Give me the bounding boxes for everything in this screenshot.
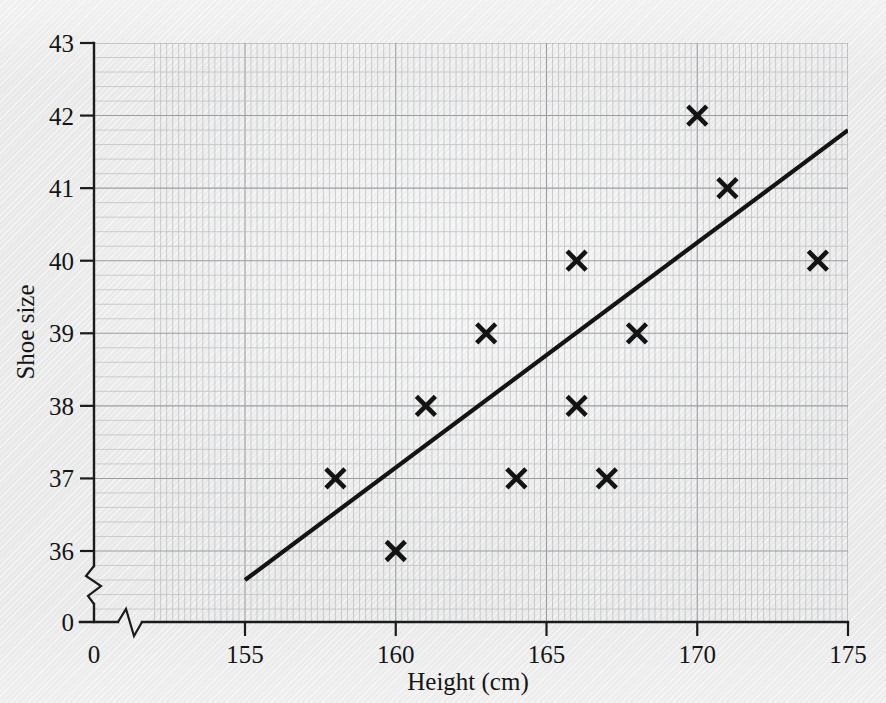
y-axis-tick-label: 39 xyxy=(49,320,74,347)
x-axis-tick-label: 155 xyxy=(226,641,264,668)
x-axis-tick-labels: 1551601651701750 xyxy=(88,641,867,668)
y-axis-title: Shoe size xyxy=(12,284,39,379)
y-axis-tick-label: 38 xyxy=(49,393,74,420)
y-axis-break-icon xyxy=(86,566,101,604)
x-axis-tick-label: 170 xyxy=(679,641,717,668)
y-axis-tick-labels: 43424140393837360 xyxy=(49,30,74,636)
x-axis-break-icon xyxy=(118,609,142,636)
axes xyxy=(80,43,848,636)
y-axis-tick-label: 42 xyxy=(49,103,74,130)
x-axis-tick-label: 175 xyxy=(829,641,867,668)
y-axis-origin-label: 0 xyxy=(62,609,75,636)
y-axis-tick-label: 41 xyxy=(49,175,74,202)
x-axis-title: Height (cm) xyxy=(407,668,528,696)
y-axis-tick-label: 36 xyxy=(49,538,74,565)
x-axis-tick-label: 160 xyxy=(377,641,415,668)
x-axis-tick-label: 165 xyxy=(528,641,566,668)
x-axis-origin-label: 0 xyxy=(88,641,101,668)
y-axis-tick-label: 43 xyxy=(49,30,74,57)
plot-grid xyxy=(94,43,848,622)
y-axis-ticks xyxy=(80,43,94,551)
shoe-size-vs-height-scatter-chart: 43424140393837360 1551601651701750 Heigh… xyxy=(0,0,886,703)
y-axis-tick-label: 40 xyxy=(49,248,74,275)
x-axis-ticks xyxy=(245,622,697,636)
y-axis-tick-label: 37 xyxy=(49,465,74,492)
scatter-plot-screenshot: 43424140393837360 1551601651701750 Heigh… xyxy=(0,0,886,703)
